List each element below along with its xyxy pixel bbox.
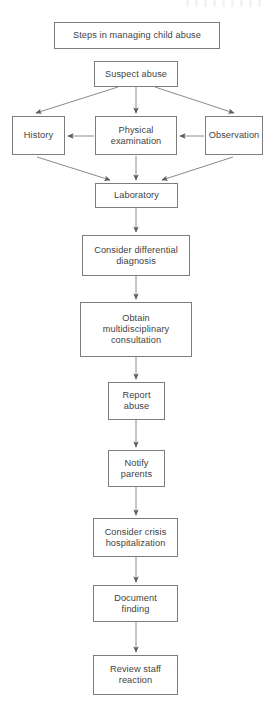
node-obtain-multidisciplinary-consultation: Obtain multidisciplinary consultation — [80, 302, 192, 357]
node-suspect-abuse-label: Suspect abuse — [95, 69, 177, 80]
node-physical-examination-label: Physical examination — [96, 125, 176, 147]
node-obtain-multidisciplinary-consultation-label: Obtain multidisciplinary consultation — [81, 313, 191, 346]
node-consider-crisis-hospitalization: Consider crisis hospitalization — [93, 518, 178, 557]
node-observation-label: Observation — [206, 130, 262, 141]
node-consider-differential-diagnosis: Consider differential diagnosis — [82, 235, 190, 276]
node-laboratory-label: Laboratory — [96, 190, 177, 201]
node-title-label: Steps in managing child abuse — [55, 30, 219, 41]
node-document-finding: Document finding — [93, 585, 178, 622]
edge-suspect-to-observation — [155, 87, 234, 113]
node-suspect-abuse: Suspect abuse — [94, 61, 178, 87]
edge-suspect-to-history — [36, 87, 118, 113]
node-observation: Observation — [205, 116, 263, 155]
flowchart-canvas: Steps in managing child abuse Suspect ab… — [0, 0, 269, 701]
node-consider-crisis-hospitalization-label: Consider crisis hospitalization — [94, 527, 177, 549]
node-report-abuse-label: Report abuse — [109, 390, 164, 412]
page-edge-artifact — [186, 0, 264, 7]
node-review-staff-reaction-label: Review staff reaction — [94, 664, 177, 686]
node-physical-examination: Physical examination — [95, 116, 177, 155]
node-review-staff-reaction: Review staff reaction — [93, 655, 178, 695]
node-history: History — [12, 116, 65, 155]
node-history-label: History — [13, 130, 64, 141]
node-report-abuse: Report abuse — [108, 382, 165, 420]
node-title: Steps in managing child abuse — [54, 22, 220, 49]
node-notify-parents-label: Notify parents — [109, 458, 164, 480]
node-consider-differential-diagnosis-label: Consider differential diagnosis — [83, 245, 189, 267]
edge-observation-to-laboratory — [162, 157, 233, 180]
node-document-finding-label: Document finding — [94, 593, 177, 615]
node-notify-parents: Notify parents — [108, 450, 165, 487]
edge-history-to-laboratory — [37, 157, 110, 180]
node-laboratory: Laboratory — [95, 183, 178, 208]
